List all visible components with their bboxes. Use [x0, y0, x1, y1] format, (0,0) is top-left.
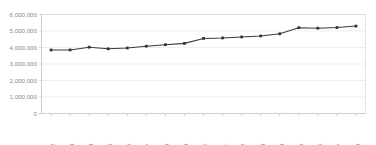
data-point-marker [107, 47, 110, 50]
data-point-marker [50, 49, 53, 52]
chart-canvas: 01,000,0002,000,0003,000,0004,000,0005,0… [0, 0, 376, 145]
data-point-marker [240, 36, 243, 39]
data-point-marker [202, 37, 205, 40]
data-point-marker [183, 42, 186, 45]
y-tick-label: 5,000,000 [9, 27, 37, 34]
data-point-marker [297, 26, 300, 29]
y-tick-label: 4,000,000 [9, 44, 37, 51]
data-point-marker [69, 49, 72, 52]
data-point-marker [88, 46, 91, 49]
data-point-marker [355, 25, 358, 28]
data-point-marker [259, 35, 262, 38]
data-point-marker [336, 26, 339, 29]
data-point-marker [221, 37, 224, 40]
y-tick-label: 3,000,000 [9, 60, 37, 67]
data-point-marker [145, 45, 148, 48]
data-point-marker [164, 43, 167, 46]
data-point-marker [317, 27, 320, 30]
y-tick-label: 0 [34, 110, 38, 117]
y-tick-label: 1,000,000 [9, 93, 37, 100]
y-tick-label: 6,000,000 [9, 11, 37, 18]
line-chart: 01,000,0002,000,0003,000,0004,000,0005,0… [0, 0, 376, 145]
data-point-marker [126, 47, 129, 50]
y-tick-label: 2,000,000 [9, 77, 37, 84]
data-point-marker [278, 32, 281, 35]
chart-background [0, 0, 376, 145]
